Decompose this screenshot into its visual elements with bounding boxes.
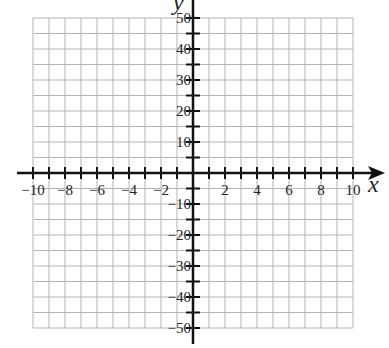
y-tick-label: −10 (168, 196, 191, 212)
x-axis-label: x (367, 171, 379, 197)
x-tick-label: −6 (89, 182, 105, 198)
x-tick-label: 8 (317, 182, 325, 198)
y-tick-label: 20 (176, 103, 191, 119)
y-tick-label: −50 (168, 320, 191, 336)
x-tick-label: 2 (221, 182, 229, 198)
x-tick-label: 6 (285, 182, 293, 198)
y-tick-label: 30 (176, 72, 191, 88)
coordinate-plane: −10−8−6−4−22468105040302010−10−20−30−40−… (0, 0, 389, 348)
axes (17, 0, 385, 344)
x-tick-label: 10 (346, 182, 361, 198)
x-tick-label: −10 (21, 182, 44, 198)
y-axis-label: y (171, 0, 184, 15)
y-tick-label: −30 (168, 258, 191, 274)
y-tick-label: −40 (168, 289, 191, 305)
y-tick-label: 40 (176, 41, 191, 57)
x-tick-label: −4 (121, 182, 137, 198)
y-tick-label: −20 (168, 227, 191, 243)
x-tick-label: 4 (253, 182, 261, 198)
x-tick-label: −8 (57, 182, 73, 198)
y-tick-label: 10 (176, 134, 191, 150)
